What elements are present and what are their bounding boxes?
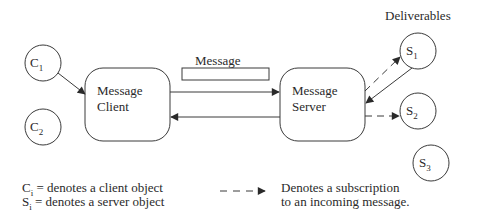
message-label: Message (195, 53, 241, 68)
message-server-line2: Server (292, 99, 338, 115)
legend-client-symbol: C (22, 180, 31, 195)
legend-client-text: = denotes a client object (33, 180, 163, 195)
arrow-c1-to-client (58, 73, 85, 94)
client-c2-subscript: 2 (39, 127, 44, 137)
legend-server-definition: Si = denotes a server object (22, 194, 164, 215)
client-c2-symbol: C (30, 119, 39, 134)
subscription-arrow-server-to-s1 (365, 57, 400, 91)
server-s2-subscript: 2 (413, 111, 418, 121)
client-c1-label: C1 (30, 55, 43, 73)
client-c1-symbol: C (30, 55, 39, 70)
server-s1-label: S1 (406, 43, 418, 61)
deliverables-label: Deliverables (385, 8, 451, 23)
message-server-line1: Message (292, 83, 338, 99)
client-c1-subscript: 1 (39, 63, 44, 73)
message-client-line1: Message (97, 83, 143, 99)
legend-subscription-line1: Denotes a subscription (281, 180, 399, 195)
message-server-label: Message Server (292, 83, 338, 115)
client-c2-label: C2 (30, 119, 43, 137)
legend-subscription-line2: to an incoming message. (281, 194, 410, 209)
server-s1-subscript: 1 (413, 51, 418, 61)
server-s3-subscript: 3 (426, 163, 431, 173)
message-packet-box (182, 68, 269, 80)
legend-server-text: = denotes a server object (32, 194, 165, 209)
server-s2-label: S2 (406, 103, 418, 121)
message-client-label: Message Client (97, 83, 143, 115)
server-s3-label: S3 (419, 155, 431, 173)
message-client-line2: Client (97, 99, 143, 115)
